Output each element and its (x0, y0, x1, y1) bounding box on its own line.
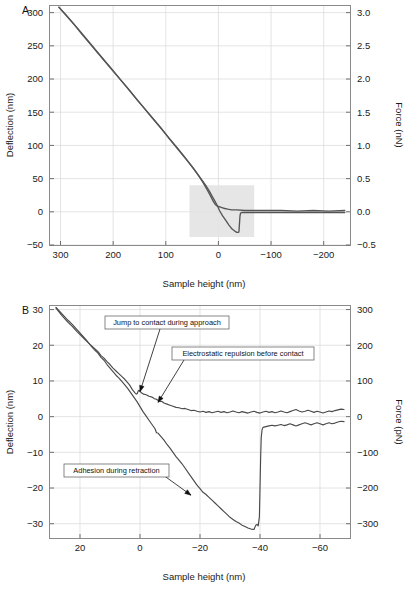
y-tick-label-left: 0 (38, 206, 43, 217)
y-tick-label-right: 100 (357, 375, 373, 386)
panel-a-plot: 3002001000−100−200−50050100150200250300−… (0, 0, 408, 295)
panel-a: 3002001000−100−200−50050100150200250300−… (0, 0, 408, 295)
annotation-label: Electrostatic repulsion before contact (182, 349, 303, 358)
y-tick-label-left: 0 (38, 411, 43, 422)
panel-a-highlight-region (189, 185, 254, 237)
panel-a-y-axis-title-left: Deflection (nm) (4, 93, 15, 157)
panel-b-y-axis-title-right: Force (pN) (394, 399, 405, 444)
y-tick-label-right: −0.5 (357, 239, 376, 250)
y-tick-label-right: 1.0 (357, 140, 370, 151)
panel-b-plot: 200−20−40−60−30−20−100102030−300−200−100… (0, 295, 408, 589)
y-tick-label-right: 0 (357, 411, 362, 422)
y-tick-label-right: −200 (357, 482, 378, 493)
y-tick-label-right: 3.0 (357, 7, 370, 18)
afm-force-curve-figure: 3002001000−100−200−50050100150200250300−… (0, 0, 408, 589)
panel-b-y-axis-title-left: Deflection (nm) (4, 390, 15, 454)
y-tick-label-right: 1.5 (357, 107, 370, 118)
panel-b-gridlines (50, 306, 350, 538)
x-tick-label: −200 (313, 249, 334, 260)
annotation-label: Jump to contact during approach (113, 318, 221, 327)
x-tick-label: −20 (192, 542, 208, 553)
y-tick-label-right: 300 (357, 304, 373, 315)
panel-a-letter: A (22, 4, 29, 16)
highlight-region (189, 185, 254, 237)
annotation-label: Adhesion during retraction (73, 466, 159, 475)
y-tick-label-left: 300 (27, 7, 43, 18)
y-tick-label-left: 30 (32, 304, 43, 315)
x-tick-label: −100 (260, 249, 281, 260)
y-tick-label-right: −100 (357, 447, 378, 458)
annotation-arrowhead (185, 490, 191, 495)
y-tick-label-left: 250 (27, 40, 43, 51)
x-tick-label: 200 (105, 249, 121, 260)
panel-a-y-axis-title-right: Force (nN) (394, 102, 405, 147)
y-tick-label-left: 10 (32, 375, 43, 386)
y-tick-label-left: −50 (27, 239, 43, 250)
annotation-arrowhead (140, 385, 144, 391)
x-tick-label: 20 (75, 542, 86, 553)
y-tick-label-left: −10 (27, 447, 43, 458)
panel-b-tick-labels: 200−20−40−60−30−20−100102030−300−200−100… (27, 304, 379, 553)
annotation-adhesion-retraction: Adhesion during retraction (64, 464, 191, 495)
y-tick-label-left: 200 (27, 73, 43, 84)
y-tick-label-left: 20 (32, 340, 43, 351)
y-tick-label-right: 200 (357, 340, 373, 351)
x-tick-label: −60 (312, 542, 328, 553)
x-tick-label: 100 (158, 249, 174, 260)
x-tick-label: −40 (252, 542, 268, 553)
annotation-electrostatic-repulsion: Electrostatic repulsion before contact (158, 347, 314, 402)
x-tick-label: 300 (53, 249, 69, 260)
y-tick-label-right: 2.0 (357, 73, 370, 84)
y-tick-label-left: −20 (27, 482, 43, 493)
y-tick-label-left: −30 (27, 518, 43, 529)
panel-a-x-axis-title: Sample height (nm) (163, 278, 246, 289)
panel-b-letter: B (22, 304, 29, 316)
x-tick-label: 0 (137, 542, 142, 553)
y-tick-label-left: 150 (27, 107, 43, 118)
panel-b-x-axis-title: Sample height (nm) (163, 571, 246, 582)
annotation-leader (140, 329, 160, 392)
y-tick-label-left: 50 (32, 173, 43, 184)
y-tick-label-right: −300 (357, 518, 378, 529)
y-tick-label-right: 0.5 (357, 173, 370, 184)
panel-b: 200−20−40−60−30−20−100102030−300−200−100… (0, 295, 408, 589)
y-tick-label-right: 2.5 (357, 40, 370, 51)
x-tick-label: 0 (216, 249, 221, 260)
y-tick-label-left: 100 (27, 140, 43, 151)
y-tick-label-right: 0.0 (357, 206, 370, 217)
panel-b-annotations: Jump to contact during approachElectrost… (64, 316, 314, 495)
